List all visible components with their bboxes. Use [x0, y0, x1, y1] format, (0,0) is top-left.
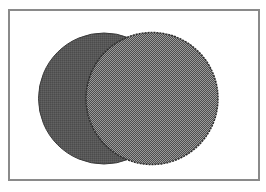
venn-diagram — [0, 0, 266, 192]
right-circle — [86, 33, 218, 165]
